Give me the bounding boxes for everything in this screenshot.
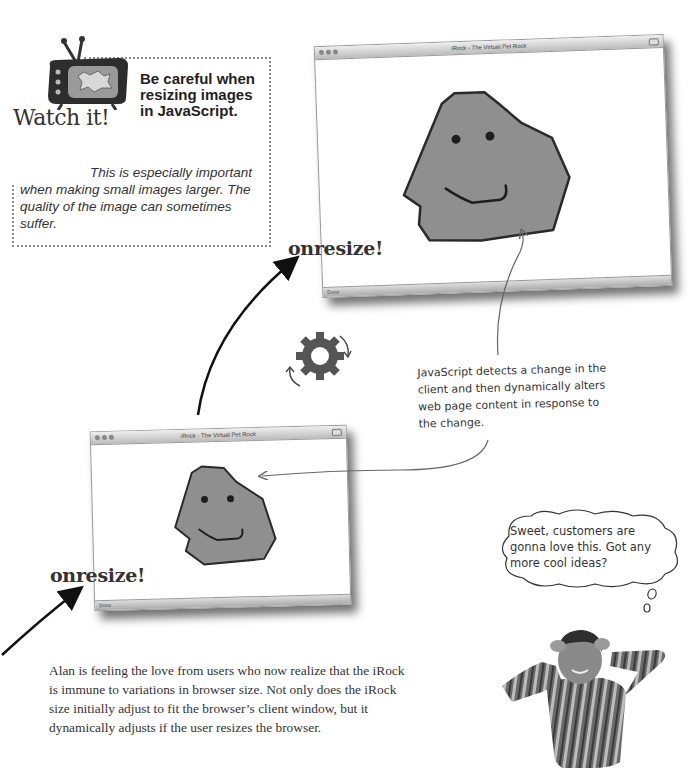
gear-icon [282,330,354,392]
thought-bubble-text: Sweet, customers are gonna love this. Go… [510,523,670,571]
onresize-label-top: onresize! [288,237,383,259]
onresize-label-bottom: onresize! [50,564,145,586]
annotation-arrow-large [497,232,523,355]
annotation-text: JavaScript detects a change in the clien… [417,359,619,432]
resize-arrow-top [198,262,292,415]
person-photo [502,622,672,772]
annotation-arrow-small [262,440,488,476]
resize-arrow-bottom [2,592,76,655]
body-paragraph: Alan is feeling the love from users who … [49,661,409,737]
